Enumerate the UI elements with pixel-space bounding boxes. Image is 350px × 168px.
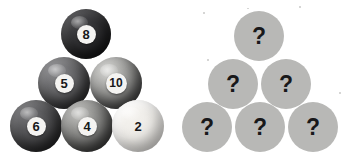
mystery-ball-1[interactable]: ? xyxy=(234,11,284,61)
question-mark-icon: ? xyxy=(200,116,214,139)
ball-4[interactable]: 4 xyxy=(61,100,113,152)
mystery-ball-3[interactable]: ? xyxy=(261,59,311,109)
mystery-ball-2[interactable]: ? xyxy=(208,59,258,109)
question-mark-icon: ? xyxy=(279,73,293,96)
ball-2[interactable]: 2 xyxy=(112,100,164,152)
ball-number-10: 10 xyxy=(106,73,127,94)
ball-number-8: 8 xyxy=(77,25,96,44)
mystery-ball-4[interactable]: ? xyxy=(182,102,232,152)
ball-number-6: 6 xyxy=(27,117,46,136)
numbered-ball-pyramid: 8510642 xyxy=(0,0,175,168)
mystery-ball-pyramid: ?????? xyxy=(175,0,350,168)
ball-8[interactable]: 8 xyxy=(61,9,111,59)
question-mark-icon: ? xyxy=(252,25,266,48)
mystery-ball-6[interactable]: ? xyxy=(288,102,338,152)
question-mark-icon: ? xyxy=(306,116,320,139)
mystery-ball-5[interactable]: ? xyxy=(235,102,285,152)
question-mark-icon: ? xyxy=(253,116,267,139)
ball-number-5: 5 xyxy=(55,74,74,93)
ball-6[interactable]: 6 xyxy=(10,100,62,152)
ball-number-2: 2 xyxy=(129,117,148,136)
ball-number-4: 4 xyxy=(78,117,97,136)
question-mark-icon: ? xyxy=(226,73,240,96)
puzzle-canvas: 8510642 ?????? xyxy=(0,0,350,168)
